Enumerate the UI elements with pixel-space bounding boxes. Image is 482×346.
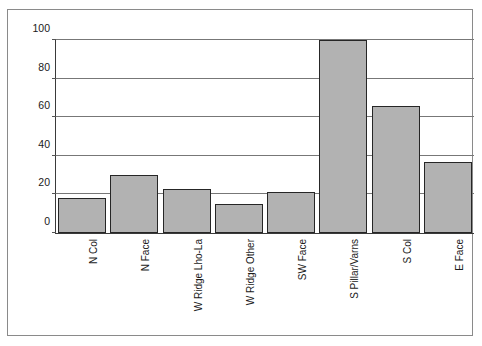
- bar-slot: [108, 40, 160, 233]
- y-tick-label: 100: [32, 22, 50, 34]
- x-tick-label: W Ridge Lho-La: [187, 167, 198, 239]
- y-tick-label: 60: [38, 99, 50, 111]
- cut-off-header-text: [6, 0, 306, 4]
- x-tick-label: E Face: [448, 207, 459, 239]
- y-tick-label: 20: [38, 176, 50, 188]
- bar-series: [56, 40, 474, 233]
- chart-screenshot: 020406080100 N ColN FaceW Ridge Lho-LaW …: [0, 0, 482, 346]
- y-tick-label: 40: [38, 138, 50, 150]
- bar-slot: [422, 40, 474, 233]
- plot-area: 020406080100 N ColN FaceW Ridge Lho-LaW …: [55, 40, 474, 234]
- x-tick-label: W Ridge Other: [239, 173, 250, 239]
- bar-slot: [56, 40, 108, 233]
- chart-outer-frame: 020406080100 N ColN FaceW Ridge Lho-LaW …: [7, 9, 473, 336]
- x-tick-label: N Face: [134, 207, 145, 239]
- bar-slot: [370, 40, 422, 233]
- x-tick-label: S Col: [396, 215, 407, 239]
- y-tick-label: 80: [38, 61, 50, 73]
- x-tick-label: SW Face: [291, 198, 302, 239]
- x-tick-label: N Col: [82, 214, 93, 239]
- y-tick-label: 0: [44, 215, 50, 227]
- x-tick-label: S Pillar/Varns: [343, 179, 354, 239]
